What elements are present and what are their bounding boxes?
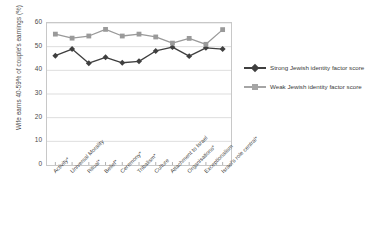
y-tick-label: 40 [20,65,42,72]
data-point-marker [103,27,108,32]
data-point-marker [70,36,75,41]
y-tick-label: 0 [20,160,42,167]
data-point-marker [170,41,175,46]
y-tick-label: 30 [20,89,42,96]
data-point-marker [204,42,209,47]
legend-item[interactable]: Strong Jewish identity factor score [244,64,378,72]
chart-legend: Strong Jewish identity factor score Weak… [244,64,378,102]
series-line-weak [55,29,222,44]
y-tick-label: 20 [20,113,42,120]
legend-item-label: Strong Jewish identity factor score [270,64,378,72]
y-tick-label: 60 [20,18,42,25]
legend-swatch-strong [244,67,266,69]
data-point-marker [187,36,192,41]
diamond-marker-icon [251,63,259,71]
legend-item[interactable]: Weak Jewish identity factor score [244,83,378,91]
y-tick-label: 50 [20,42,42,49]
data-point-marker [119,60,125,66]
data-point-marker [120,34,125,39]
y-tick-label: 10 [20,136,42,143]
data-point-marker [103,54,109,60]
square-marker-icon [252,84,258,90]
data-point-marker [137,32,142,37]
data-point-marker [220,27,225,32]
legend-item-label: Weak Jewish identity factor score [270,83,378,91]
line-chart: Wife earns 40-59% of couple's earnings (… [0,0,381,250]
legend-swatch-weak [244,86,266,88]
data-point-marker [153,35,158,40]
data-point-marker [153,48,159,54]
data-point-marker [186,53,192,59]
data-point-marker [52,53,58,59]
data-point-marker [53,32,58,37]
plot-area [46,22,232,166]
data-point-marker [136,58,142,64]
plot-svg [47,23,231,165]
data-point-marker [86,34,91,39]
